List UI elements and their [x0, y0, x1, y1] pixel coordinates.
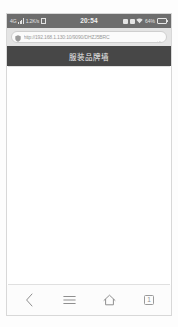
data-rate-label: 1.2K/s	[26, 19, 40, 24]
screenshot-canvas: 4G 1.2K/s 20:54 64%	[0, 0, 178, 327]
home-button[interactable]	[89, 285, 129, 315]
back-button[interactable]	[9, 285, 49, 315]
sim-card-icon	[41, 18, 46, 24]
page-title: 服装品牌墙	[7, 46, 171, 66]
shield-icon	[15, 31, 21, 43]
signal-bars-icon	[18, 18, 24, 24]
menu-button[interactable]	[49, 285, 89, 315]
alarm-icon	[123, 19, 128, 24]
status-bar-left-group: 4G 1.2K/s	[10, 18, 46, 24]
browser-toolbar: http://192.168.1.130:10/9090/DHZJ5BRC	[7, 28, 171, 46]
url-text: http://192.168.1.130:10/9090/DHZJ5BRC	[24, 35, 154, 40]
url-input[interactable]: http://192.168.1.130:10/9090/DHZJ5BRC	[11, 31, 167, 43]
battery-icon	[157, 18, 168, 24]
tabs-button[interactable]: 1	[129, 285, 169, 315]
hamburger-menu-icon	[63, 295, 76, 305]
battery-percent-label: 64%	[145, 19, 155, 24]
status-bar: 4G 1.2K/s 20:54 64%	[7, 14, 171, 28]
chevron-left-icon	[25, 293, 34, 307]
bluetooth-icon	[130, 19, 135, 24]
page-content-area[interactable]	[8, 66, 170, 285]
carrier-label: 4G	[10, 19, 16, 24]
tab-counter-icon: 1	[144, 295, 154, 305]
status-bar-right-group: 64%	[123, 18, 168, 25]
home-icon	[103, 294, 116, 306]
wifi-icon	[136, 18, 143, 25]
browser-bottom-navbar: 1	[7, 285, 171, 315]
phone-screenshot-frame: 4G 1.2K/s 20:54 64%	[6, 13, 172, 316]
reload-icon[interactable]	[156, 34, 163, 41]
